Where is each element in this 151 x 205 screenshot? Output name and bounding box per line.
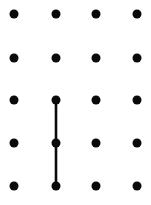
grid-dot[interactable]	[92, 139, 101, 148]
grid-dot[interactable]	[10, 182, 19, 191]
grid-dot[interactable]	[133, 54, 142, 63]
canvas-background	[0, 0, 151, 205]
grid-dot[interactable]	[92, 54, 101, 63]
grid-dot[interactable]	[52, 139, 61, 148]
grid-dot[interactable]	[52, 96, 61, 105]
grid-dot[interactable]	[52, 54, 61, 63]
grid-dot[interactable]	[133, 139, 142, 148]
dot-grid-svg	[0, 0, 151, 205]
grid-dot[interactable]	[92, 10, 101, 19]
grid-dot[interactable]	[133, 96, 142, 105]
grid-dot[interactable]	[92, 96, 101, 105]
dot-grid-canvas[interactable]	[0, 0, 151, 205]
grid-dot[interactable]	[92, 182, 101, 191]
grid-dot[interactable]	[133, 182, 142, 191]
grid-dot[interactable]	[10, 139, 19, 148]
grid-dot[interactable]	[10, 10, 19, 19]
grid-dot[interactable]	[52, 10, 61, 19]
grid-dot[interactable]	[52, 182, 61, 191]
grid-dot[interactable]	[10, 96, 19, 105]
grid-dot[interactable]	[10, 54, 19, 63]
grid-dot[interactable]	[133, 10, 142, 19]
